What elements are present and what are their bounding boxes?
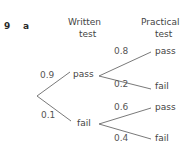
node-fail-pass: pass <box>155 103 176 112</box>
node-pass: pass <box>73 70 94 79</box>
prob-pass-pass: 0.8 <box>114 47 128 56</box>
node-fail-fail: fail <box>155 134 169 143</box>
prob-pass: 0.9 <box>40 71 54 80</box>
prob-fail: 0.1 <box>41 111 55 120</box>
node-pass-pass: pass <box>155 47 176 56</box>
prob-pass-fail: 0.2 <box>114 80 128 89</box>
node-pass-fail: fail <box>155 82 169 91</box>
prob-fail-fail: 0.4 <box>114 134 128 143</box>
prob-fail-pass: 0.6 <box>114 103 128 112</box>
node-fail: fail <box>77 119 91 128</box>
